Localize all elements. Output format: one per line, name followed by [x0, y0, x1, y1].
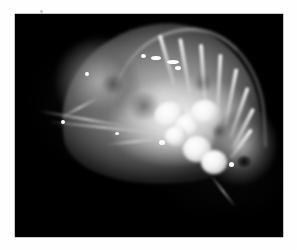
specular-highlight-8	[115, 132, 119, 135]
specular-highlight-5	[229, 162, 234, 167]
internal-mottle-2	[211, 124, 227, 138]
photograph-plate	[15, 14, 283, 237]
specular-highlight-4	[85, 72, 89, 76]
specular-highlight-6	[159, 140, 165, 145]
specular-highlight-2	[167, 60, 179, 64]
page-canvas: Amphipod crustacean, lateral view gravid…	[0, 0, 297, 250]
internal-mottle-3	[101, 74, 125, 94]
specular-highlight-1	[151, 56, 161, 60]
specular-highlight-3	[175, 66, 181, 70]
egg-5	[165, 126, 187, 146]
specular-highlight-0	[141, 54, 146, 58]
specular-highlight-7	[61, 120, 65, 124]
egg-4	[201, 150, 227, 174]
tail-dark-spot	[237, 156, 251, 167]
scan-artifact-speck	[40, 10, 43, 13]
amphipod-specimen	[15, 14, 283, 237]
egg-2	[191, 100, 219, 126]
